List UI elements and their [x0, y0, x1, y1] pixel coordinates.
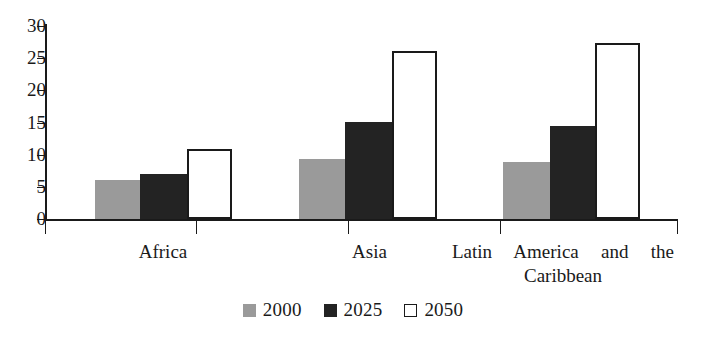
bar-africa-2050 [187, 149, 232, 219]
bar-africa-2025 [140, 174, 187, 219]
bar-asia-2000 [299, 159, 345, 219]
category-label-asia: Asia [297, 240, 442, 264]
category-label-africa: Africa [88, 240, 238, 264]
legend-item-2000: 2000 [243, 300, 302, 319]
bar-africa-2000 [95, 180, 140, 219]
bar-asia-2050 [392, 51, 437, 219]
plot-area: 30 25 20 15 10 5 0 [0, 0, 706, 240]
category-label-lac-line2: Caribbean [452, 264, 674, 288]
bars-layer [0, 0, 706, 219]
legend-label-2050: 2050 [424, 300, 463, 319]
bar-chart-figure: 30 25 20 15 10 5 0 [0, 0, 706, 344]
gray-square-icon [243, 304, 256, 317]
legend-item-2025: 2025 [324, 300, 383, 319]
x-axis-line [45, 219, 678, 221]
legend-label-2025: 2025 [344, 300, 383, 319]
white-square-icon [404, 304, 417, 317]
category-label-lac: Latin America and theCaribbean [452, 240, 674, 288]
legend-label-2000: 2000 [263, 300, 302, 319]
category-label-lac-line1: Latin America and the [452, 241, 674, 262]
bar-lac-2000 [503, 162, 550, 219]
x-tick-start [45, 221, 46, 234]
bar-lac-2050 [595, 43, 640, 219]
x-axis-category-labels: Africa Asia Latin America and theCaribbe… [0, 236, 706, 294]
legend-item-2050: 2050 [404, 300, 463, 319]
bar-lac-2025 [550, 126, 595, 219]
x-tick-end [677, 221, 678, 234]
x-tick-lac [500, 221, 501, 234]
bar-asia-2025 [345, 122, 392, 219]
legend: 2000 2025 2050 [0, 300, 706, 319]
x-tick-asia-lac [348, 221, 349, 234]
x-tick-africa-asia [196, 221, 197, 234]
black-square-icon [324, 304, 337, 317]
